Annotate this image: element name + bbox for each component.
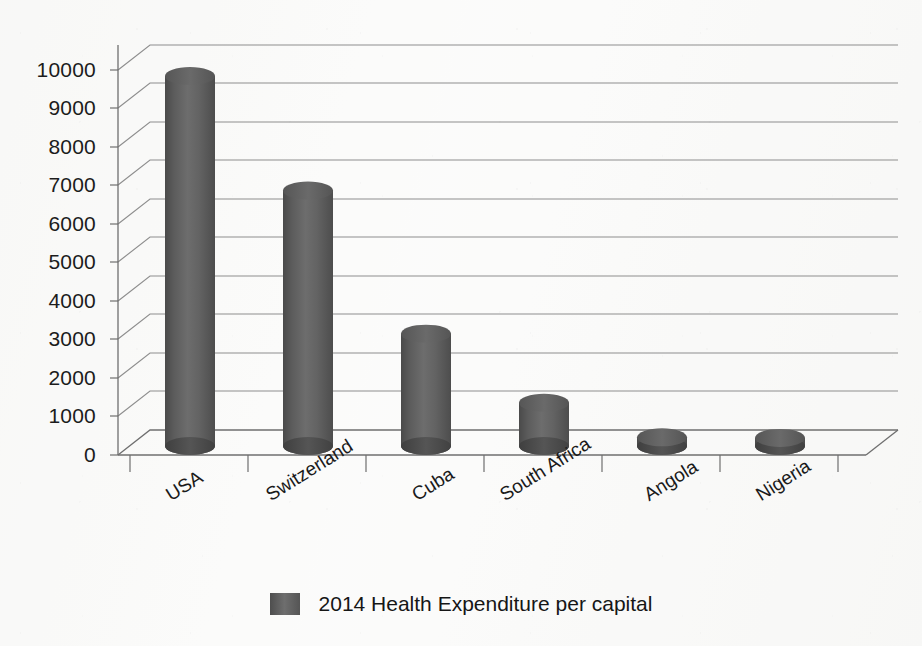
legend-color-swatch bbox=[270, 593, 300, 615]
y-tick-label: 9000 bbox=[10, 96, 96, 120]
bar-angola[interactable] bbox=[637, 428, 687, 455]
y-tick-label: 7000 bbox=[10, 173, 96, 197]
y-tick-label: 0 bbox=[10, 443, 96, 467]
bar-switzerland[interactable] bbox=[283, 182, 333, 455]
chart-plot-area bbox=[0, 0, 922, 646]
y-tick-label: 1000 bbox=[10, 404, 96, 428]
bar-nigeria[interactable] bbox=[755, 429, 805, 455]
legend-label: 2014 Health Expenditure per capital bbox=[319, 592, 653, 616]
y-tick-label: 10000 bbox=[10, 58, 96, 82]
y-tick-label: 6000 bbox=[10, 212, 96, 236]
y-tick-label: 4000 bbox=[10, 289, 96, 313]
chart-legend: 2014 Health Expenditure per capital bbox=[0, 592, 922, 616]
y-tick-label: 2000 bbox=[10, 366, 96, 390]
bar-cuba[interactable] bbox=[401, 325, 451, 455]
gridlines bbox=[118, 45, 898, 416]
y-axis-labels: 10000 9000 8000 7000 6000 5000 4000 3000… bbox=[0, 0, 96, 646]
x-axis-ticks bbox=[130, 455, 838, 472]
y-tick-label: 5000 bbox=[10, 250, 96, 274]
y-axis-ticks bbox=[110, 70, 118, 455]
chart-canvas: 10000 9000 8000 7000 6000 5000 4000 3000… bbox=[0, 0, 922, 646]
y-tick-label: 8000 bbox=[10, 135, 96, 159]
y-tick-label: 3000 bbox=[10, 327, 96, 351]
bar-usa[interactable] bbox=[165, 67, 215, 455]
